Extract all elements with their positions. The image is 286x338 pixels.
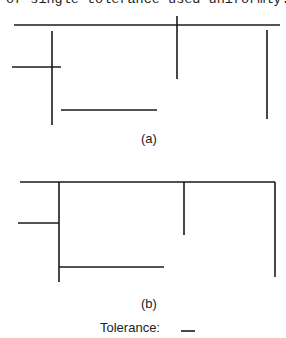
- figure-b-label: (b): [141, 296, 157, 311]
- figure-a-lines: [12, 16, 280, 125]
- tolerance-legend-label: Tolerance:: [100, 320, 160, 335]
- diagram-canvas: [0, 0, 286, 338]
- figure-b-lines: [18, 182, 275, 282]
- figure-a-label: (a): [141, 131, 157, 146]
